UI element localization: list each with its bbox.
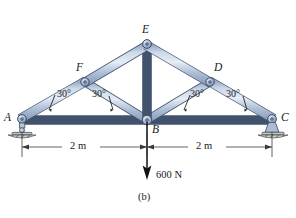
figure-caption: (b) [138,192,150,203]
angle-label-at-c: 30° [226,89,240,99]
joint-label-d: D [214,62,222,74]
joint-pin-d [206,78,214,86]
joint-pin-a [18,115,27,124]
angle-label-at-a: 30° [57,89,71,99]
joint-pin-e [143,40,152,49]
truss-figure: A F E D C B 30° 30° 30° 30° 2 m 2 m 600 … [0,0,296,218]
angle-label-db-at-b: 30° [190,89,204,99]
joint-pin-f [81,78,89,86]
dimension-label-left: 2 m [70,141,86,152]
support-c-pin [258,123,288,139]
dimension-label-right: 2 m [196,141,212,152]
member-fe [84,45,148,83]
member-ed [146,45,211,83]
joint-label-e: E [142,24,149,36]
joint-label-b: B [152,124,159,136]
joint-label-a: A [4,112,11,124]
angle-label-fb-at-b: 30° [92,89,106,99]
member-dc [209,81,274,119]
joint-label-f: F [76,62,83,74]
load-label: 600 N [156,170,182,181]
joint-label-c: C [281,112,289,124]
